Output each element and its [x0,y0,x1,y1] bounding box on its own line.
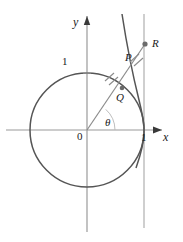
angle-theta-label: θ [105,117,110,128]
y-axis-arrowhead [84,16,90,25]
point-label-Q: Q [116,92,124,103]
point-label-P: P [125,52,132,63]
point-label-R: R [152,38,159,49]
geometry-figure: y x 0 1 1 θ P Q R [0,0,183,242]
point-Q-marker [120,86,125,91]
x-axis-label: x [163,131,168,143]
point-R-marker [142,41,147,46]
y-tick-label-1: 1 [62,56,68,67]
y-axis-label: y [73,16,78,28]
x-axis-arrowhead [153,127,162,134]
x-tick-label-1: 1 [141,132,147,143]
plotted-curve [122,14,144,168]
origin-label: 0 [77,131,83,142]
